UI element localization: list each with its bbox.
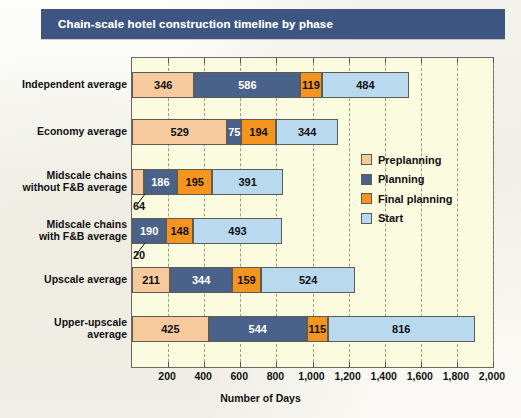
x-tick-mark <box>313 362 314 367</box>
chart-title: Chain-scale hotel construction timeline … <box>58 18 333 30</box>
x-tick-mark <box>240 362 241 367</box>
bar-segment-final-planning <box>177 169 212 195</box>
x-tick-mark <box>276 58 277 63</box>
x-tick-mark <box>457 58 458 63</box>
bar-segment-preplanning <box>132 267 170 293</box>
x-tick-label: 1,600 <box>407 370 433 382</box>
x-axis-tick-labels: 2004006008001,0001,2001,4001,6001,8002,0… <box>131 370 494 384</box>
bar-row: 52975194344 <box>132 119 495 145</box>
bar-segment-preplanning <box>132 169 144 195</box>
legend-swatch <box>361 213 372 224</box>
bar-segment-preplanning <box>132 72 194 98</box>
legend-label: Planning <box>378 173 424 185</box>
y-axis-label-line: with F&B average <box>0 230 127 243</box>
bar-segment-start <box>276 119 338 145</box>
legend-item-preplanning: Preplanning <box>361 150 486 170</box>
y-axis-label-5: Upper-upscaleaverage <box>0 316 127 341</box>
x-tick-mark <box>349 58 350 63</box>
bar-segment-start <box>322 72 409 98</box>
x-tick-label: 1,000 <box>298 370 324 382</box>
x-tick-label: 1,200 <box>334 370 360 382</box>
bar-row: 211344159524 <box>132 267 495 293</box>
legend-item-planning: Planning <box>361 170 486 190</box>
legend-label: Start <box>378 212 403 224</box>
x-tick-mark <box>493 362 494 367</box>
x-tick-mark <box>204 362 205 367</box>
legend-swatch <box>361 174 372 185</box>
x-tick-mark <box>385 362 386 367</box>
x-tick-mark <box>313 58 314 63</box>
y-axis-labels: Independent averageEconomy averageMidsca… <box>0 57 127 368</box>
bar-segment-final-planning <box>232 267 261 293</box>
bar-segment-planning <box>170 267 232 293</box>
bar-segment-start <box>193 218 282 244</box>
y-axis-label-line: Midscale chains <box>0 218 127 231</box>
y-axis-label-4: Upscale average <box>0 273 127 286</box>
chart-legend: PreplanningPlanningFinal planningStart <box>361 150 486 228</box>
y-axis-label-line: Upper-upscale <box>0 316 127 329</box>
bar-segment-planning <box>132 218 166 244</box>
x-tick-label: 1,400 <box>371 370 397 382</box>
bar-segment-planning <box>227 119 241 145</box>
legend-swatch <box>361 154 372 165</box>
bar-segment-final-planning <box>300 72 321 98</box>
y-axis-label-line: Economy average <box>0 125 127 138</box>
legend-label: Preplanning <box>378 154 442 166</box>
bar-segment-start <box>328 316 475 342</box>
x-axis-title: Number of Days <box>0 392 521 404</box>
x-tick-mark <box>421 362 422 367</box>
x-tick-mark <box>421 58 422 63</box>
x-tick-mark <box>349 362 350 367</box>
x-tick-mark <box>168 58 169 63</box>
x-tick-label: 1,800 <box>443 370 469 382</box>
legend-item-final-planning: Final planning <box>361 189 486 209</box>
legend-item-start: Start <box>361 209 486 229</box>
x-tick-mark <box>240 58 241 63</box>
bar-segment-preplanning <box>132 316 209 342</box>
legend-label: Final planning <box>378 193 453 205</box>
y-axis-label-line: Independent average <box>0 78 127 91</box>
bar-segment-final-planning <box>166 218 193 244</box>
callout-leader-line <box>136 243 158 257</box>
bar-row: 425544115816 <box>132 316 495 342</box>
bar-segment-preplanning <box>132 119 227 145</box>
bar-segment-planning <box>209 316 307 342</box>
x-tick-mark <box>385 58 386 63</box>
callout-leader-line <box>136 194 158 208</box>
y-axis-label-line: Upscale average <box>0 273 127 286</box>
x-tick-label: 800 <box>267 370 285 382</box>
x-tick-mark <box>276 362 277 367</box>
bar-segment-start <box>261 267 356 293</box>
x-tick-label: 200 <box>158 370 176 382</box>
bar-segment-final-planning <box>241 119 276 145</box>
bar-row: 346586119484 <box>132 72 495 98</box>
legend-swatch <box>361 193 372 204</box>
x-tick-label: 600 <box>231 370 249 382</box>
y-axis-label-0: Independent average <box>0 78 127 91</box>
bar-segment-start <box>212 169 283 195</box>
y-axis-label-2: Midscale chainswithout F&B average <box>0 169 127 194</box>
x-tick-mark <box>493 58 494 63</box>
bar-segment-final-planning <box>307 316 328 342</box>
x-tick-mark <box>457 362 458 367</box>
x-tick-mark <box>204 58 205 63</box>
bar-segment-planning <box>194 72 300 98</box>
y-axis-label-line: without F&B average <box>0 181 127 194</box>
x-tick-label: 2,000 <box>479 370 505 382</box>
y-axis-label-line: average <box>0 328 127 341</box>
x-tick-label: 400 <box>194 370 212 382</box>
bar-segment-planning <box>144 169 178 195</box>
y-axis-label-3: Midscale chainswith F&B average <box>0 218 127 243</box>
y-axis-label-1: Economy average <box>0 125 127 138</box>
x-tick-mark <box>168 362 169 367</box>
y-axis-label-line: Midscale chains <box>0 169 127 182</box>
chart-title-bar: Chain-scale hotel construction timeline … <box>41 9 505 39</box>
